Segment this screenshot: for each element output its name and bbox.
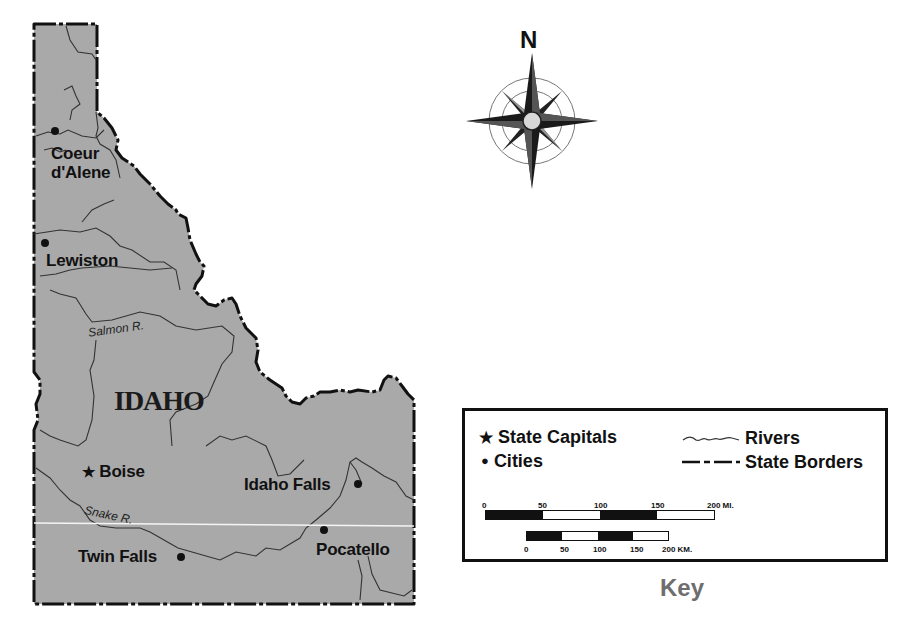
city-dot-idaho-falls <box>354 480 362 488</box>
city-dot-lewiston <box>41 239 49 247</box>
key-item-state-borders: State Borders <box>745 452 863 473</box>
border-line-icon <box>682 459 740 465</box>
city-label-pocatello: Pocatello <box>316 540 390 560</box>
key-item-cities: ● Cities <box>481 451 543 472</box>
city-label-twin-falls: Twin Falls <box>78 547 157 567</box>
map-key: ★ State Capitals ● Cities Rivers State B… <box>462 408 888 562</box>
compass-rose-icon <box>466 53 598 189</box>
city-label-boise: ★ Boise <box>82 462 145 482</box>
city-dot-coeur-dalene <box>51 127 59 135</box>
key-item-rivers: Rivers <box>745 428 800 449</box>
capital-star-icon: ★ <box>82 463 95 480</box>
city-dot-pocatello <box>320 526 328 534</box>
key-item-state-capitals: ★ State Capitals <box>479 427 617 448</box>
capital-star-icon: ★ <box>479 429 493 446</box>
city-label-lewiston: Lewiston <box>46 251 118 271</box>
key-title: Key <box>660 574 704 602</box>
river-line-icon <box>682 433 740 445</box>
state-name-label: IDAHO <box>114 385 204 417</box>
city-label-coeur-dalene: Coeur d'Alene <box>51 144 110 182</box>
compass-north-label: N <box>520 26 537 54</box>
city-dot-twin-falls <box>177 553 185 561</box>
city-dot-icon: ● <box>481 453 489 468</box>
city-label-idaho-falls: Idaho Falls <box>244 475 331 495</box>
